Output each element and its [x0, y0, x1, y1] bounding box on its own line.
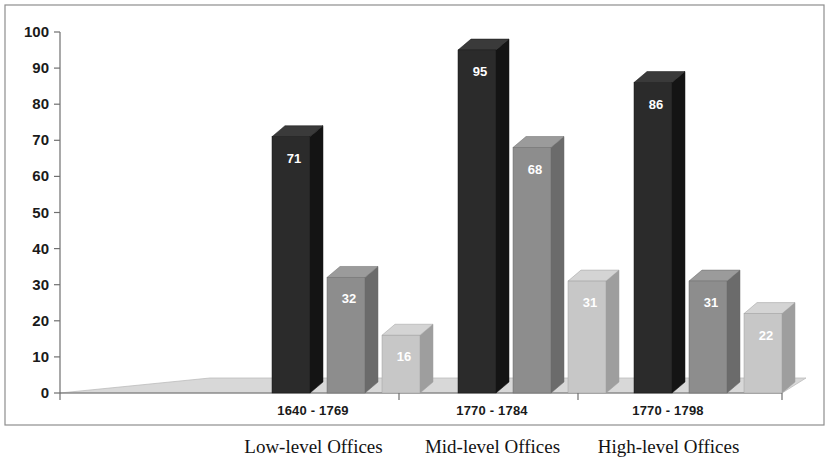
bar-g1-s2-side	[365, 266, 378, 393]
bar-chart-3d: 0102030405060708090100163271316895223186…	[0, 0, 833, 469]
bar-g3-s1-side	[672, 72, 685, 393]
y-axis-label-20: 20	[32, 312, 49, 329]
bar-g3-s3-front	[744, 314, 782, 393]
x-axis-category-label-3: 1770 - 1798	[632, 403, 704, 418]
bar-g2-s3-value-label: 31	[583, 295, 597, 310]
bar-g3-s1-front	[634, 83, 672, 393]
bar-g3-s3-value-label: 22	[759, 328, 773, 343]
y-axis-label-90: 90	[32, 59, 49, 76]
bar-g2-s2-value-label: 68	[528, 162, 542, 177]
y-axis-label-0: 0	[41, 384, 49, 401]
bar-g1-s1-value-label: 71	[287, 151, 301, 166]
group-caption-high-level: High-level Offices	[252, 436, 833, 458]
bar-g2-s1-front	[458, 50, 496, 393]
y-axis-label-100: 100	[24, 23, 49, 40]
x-axis-category-label-1: 1640 - 1769	[277, 403, 349, 418]
bar-g1-s2-value-label: 32	[342, 291, 356, 306]
bar-g3-s2-side	[727, 270, 740, 393]
bar-g2-s2-front	[513, 148, 551, 393]
bar-g3-s2-value-label: 31	[704, 295, 718, 310]
y-axis-label-70: 70	[32, 131, 49, 148]
bar-g1-s1-side	[310, 126, 323, 393]
y-axis-label-80: 80	[32, 95, 49, 112]
chart-figure: 0102030405060708090100163271316895223186…	[0, 0, 833, 469]
y-axis-label-60: 60	[32, 167, 49, 184]
bar-g2-s1-value-label: 95	[473, 64, 487, 79]
bar-g1-s3-value-label: 16	[397, 349, 411, 364]
y-axis-label-30: 30	[32, 276, 49, 293]
bar-g2-s1-side	[496, 39, 509, 393]
bar-g2-s2-side	[551, 137, 564, 393]
y-axis-label-50: 50	[32, 204, 49, 221]
bar-g1-s1-front	[272, 137, 310, 393]
bar-g3-s1-value-label: 86	[649, 97, 663, 112]
bar-g1-s3-side	[420, 324, 433, 393]
x-axis-category-label-2: 1770 - 1784	[456, 403, 528, 418]
bar-g3-s3-side	[782, 303, 795, 393]
bar-g2-s3-side	[606, 270, 619, 393]
y-axis-label-10: 10	[32, 348, 49, 365]
y-axis-label-40: 40	[32, 240, 49, 257]
